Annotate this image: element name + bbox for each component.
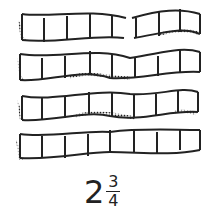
whole-part: 2 xyxy=(84,176,104,208)
paper-strip-3 xyxy=(17,90,198,120)
paper-strip-1 xyxy=(18,9,200,42)
numerator: 3 xyxy=(106,174,120,190)
denominator: 4 xyxy=(106,193,120,209)
fraction-part: 3 4 xyxy=(106,174,120,209)
mixed-number-label: 2 3 4 xyxy=(84,174,121,209)
paper-strip-4 xyxy=(16,130,200,161)
paper-strip-2 xyxy=(17,50,200,80)
